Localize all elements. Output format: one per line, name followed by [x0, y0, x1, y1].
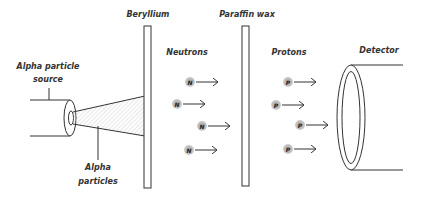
proton-4: P: [283, 144, 316, 154]
neutron-2: N: [172, 99, 205, 109]
neutron-4: N: [184, 145, 217, 155]
beryllium-label: Beryllium: [118, 9, 178, 20]
diagram-graphics: N N N N P: [0, 0, 426, 208]
paraffin-label: Paraffin wax: [212, 9, 282, 20]
alpha-source: [30, 88, 76, 136]
proton-3: P: [295, 120, 328, 130]
source-label-line1: Alpha particle: [12, 61, 84, 72]
protons-label: Protons: [264, 47, 314, 58]
detector-label: Detector: [354, 45, 404, 56]
alpha-label-line1: Alpha: [76, 162, 120, 173]
neutrons: N N N N: [172, 77, 230, 155]
svg-text:N: N: [187, 79, 192, 86]
svg-text:P: P: [298, 122, 303, 129]
neutron-3: N: [197, 121, 230, 131]
proton-1: P: [283, 77, 316, 87]
svg-text:N: N: [199, 123, 204, 130]
svg-text:N: N: [186, 147, 191, 154]
beryllium-plate: [144, 26, 151, 188]
alpha-beam: [73, 96, 145, 160]
neutron-1: N: [185, 77, 218, 87]
protons: P P P P: [271, 77, 328, 154]
source-label-line2: source: [12, 74, 84, 85]
alpha-label-line2: particles: [72, 176, 124, 187]
chadwick-experiment-diagram: N N N N P: [0, 0, 426, 208]
proton-2: P: [271, 100, 304, 110]
svg-text:N: N: [174, 101, 179, 108]
svg-text:P: P: [286, 79, 291, 86]
svg-text:P: P: [274, 102, 279, 109]
neutrons-label: Neutrons: [162, 47, 212, 58]
paraffin-plate: [242, 26, 249, 186]
detector: [337, 65, 403, 170]
svg-text:P: P: [286, 146, 291, 153]
